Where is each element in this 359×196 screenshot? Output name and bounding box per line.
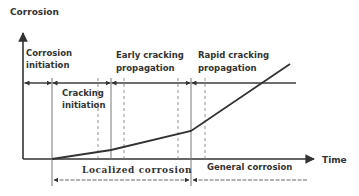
label-general-corrosion: General corrosion xyxy=(207,162,292,172)
label-early-cracking-propagation: Early cracking propagation xyxy=(116,50,187,73)
corrosion-stages-diagram: Corrosion Time Corrosion initiation Crac… xyxy=(0,0,359,196)
label-rapid-cracking-propagation: Rapid cracking propagation xyxy=(198,50,272,73)
label-corrosion-initiation: Corrosion initiation xyxy=(26,48,75,70)
label-cracking-initiation: Cracking initiation xyxy=(62,88,107,110)
x-axis-label: Time xyxy=(322,155,347,165)
corrosion-curve xyxy=(52,64,290,159)
label-localized-corrosion: Localized corrosion xyxy=(82,165,192,175)
y-axis-label: Corrosion xyxy=(10,7,59,17)
